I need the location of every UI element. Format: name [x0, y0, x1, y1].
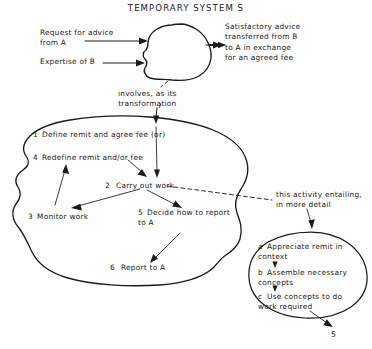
activity-6-number: 6: [110, 263, 121, 273]
arrow-carryout-to-decide-head: [172, 201, 182, 209]
transformation-note: involves, as its transformation: [118, 89, 177, 110]
sub-activity-c: cUse concepts to do work required: [258, 292, 342, 313]
input-label-expertise: Expertise of B: [40, 57, 95, 67]
arrow-decide-to-report-head: [150, 254, 158, 263]
activity-5: 5Decide how to report to A: [138, 208, 230, 229]
arrow-detail-to-subblob-head: [308, 219, 314, 229]
sub-activity-b-letter: b: [258, 268, 267, 278]
sub-activity-a-label: Appreciate remit in context: [258, 242, 343, 261]
sub-activity-b-label: Assemble necessary concepts: [258, 268, 347, 287]
activity-2: 2Carry out work: [105, 181, 174, 191]
arrow-redefine-to-carryout-head: [138, 169, 148, 177]
arrow-decide-to-report: [155, 233, 180, 258]
activity-3-number: 3: [28, 212, 37, 222]
arrow-monitor-to-redefine: [55, 170, 65, 205]
activity-5-label: Decide how to report to A: [138, 208, 230, 227]
activity-1: 1Define remit and agree fee (or): [33, 130, 165, 140]
activity-5-number: 5: [138, 208, 147, 218]
input-label-request: Request for advice from A: [40, 28, 114, 49]
sub-activity-b: bAssemble necessary concepts: [258, 268, 347, 289]
sub-activity-c-label: Use concepts to do work required: [258, 292, 342, 311]
arrow-carryout-to-monitor-head: [71, 204, 82, 211]
activity-6-label: Report to A: [121, 263, 165, 272]
activity-6: 6Report to A: [110, 263, 165, 273]
sub-activity-a-letter: a: [258, 242, 267, 252]
detail-dashed-line: [167, 186, 272, 200]
arrow-carryout-to-monitor: [78, 189, 140, 206]
activity-2-label: Carry out work: [116, 181, 174, 190]
activity-4-number: 4: [33, 153, 42, 163]
input-arrow-expertise-head: [136, 60, 145, 67]
arrow-subblob-to-footer-head: [323, 319, 333, 327]
activity-4-label: Redefine remit and/or fee: [42, 153, 143, 162]
sub-activity-c-letter: c: [258, 292, 267, 302]
activity-3-label: Monitor work: [37, 212, 88, 221]
footer-marker: 5: [331, 330, 336, 340]
output-label: Satisfactory advice transferred from B t…: [225, 22, 300, 64]
main-activity-blob: [13, 116, 248, 286]
activity-1-label: Define remit and agree fee (or): [42, 130, 165, 139]
diagram-canvas: TEMPORARY SYSTEM S: [0, 0, 372, 349]
arrow-carryout-to-decide: [147, 190, 176, 205]
activity-1-number: 1: [33, 130, 42, 140]
arrow-monitor-to-redefine-head: [62, 164, 69, 174]
temporary-system-blob: [143, 24, 211, 80]
transformation-dashed-line: [161, 81, 168, 87]
arrow-top-to-carryout-head: [154, 170, 160, 179]
detail-note: this activity entailing, in more detail: [276, 190, 362, 211]
input-arrow-request-head: [139, 38, 148, 45]
activity-4: 4Redefine remit and/or fee: [33, 153, 143, 163]
activity-2-number: 2: [105, 181, 116, 191]
activity-3: 3Monitor work: [28, 212, 88, 222]
sub-activity-a: aAppreciate remit in context: [258, 242, 343, 263]
